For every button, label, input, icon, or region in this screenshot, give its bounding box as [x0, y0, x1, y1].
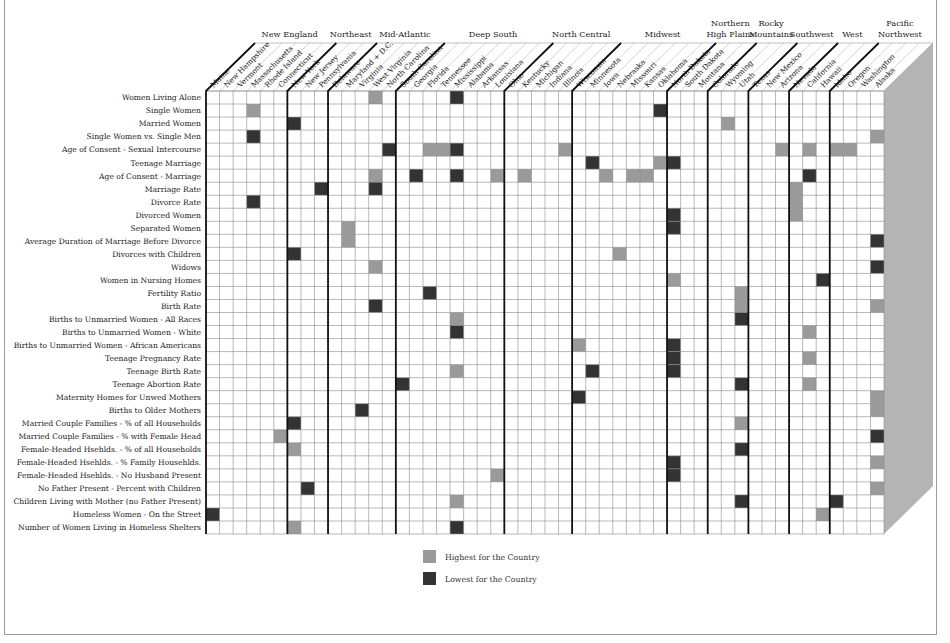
cell-highest	[803, 378, 817, 391]
cell-highest	[369, 260, 383, 273]
cell-lowest	[667, 352, 681, 365]
cell-highest	[870, 456, 884, 469]
cell-highest	[599, 169, 613, 182]
legend-swatch-lowest	[423, 572, 436, 585]
cell-lowest	[247, 195, 261, 208]
chart-legend: Highest for the CountryLowest for the Co…	[423, 550, 540, 585]
cell-highest	[613, 247, 627, 260]
row-label: Maternity Homes for Unwed Mothers	[56, 393, 201, 402]
region-label: Deep South	[469, 29, 518, 39]
row-label: Single Women	[146, 106, 201, 115]
cell-lowest	[586, 365, 600, 378]
row-label: Single Women vs. Single Men	[87, 132, 202, 141]
row-label: Teenage Pregnancy Rate	[105, 354, 201, 363]
row-label: Marriage Rate	[145, 185, 202, 194]
cell-lowest	[667, 456, 681, 469]
region-label: Rocky	[758, 18, 784, 28]
cell-lowest	[667, 156, 681, 169]
cell-lowest	[450, 143, 464, 156]
cell-lowest	[355, 404, 369, 417]
cell-highest	[491, 169, 505, 182]
cell-highest	[803, 326, 817, 339]
cell-lowest	[735, 378, 749, 391]
row-label: Births to Unmarried Women - White	[62, 328, 201, 337]
region-label: High Plains	[706, 29, 754, 39]
cell-lowest	[247, 130, 261, 143]
cell-highest	[870, 299, 884, 312]
cell-lowest	[450, 326, 464, 339]
cell-highest	[287, 521, 301, 534]
row-label: Births to Unmarried Women - African Amer…	[14, 341, 201, 350]
cell-lowest	[870, 234, 884, 247]
legend-swatch-highest	[423, 550, 436, 563]
chart-3d-side-face	[884, 43, 933, 534]
row-label: Married Couple Families - % with Female …	[18, 432, 201, 441]
cell-lowest	[450, 169, 464, 182]
cell-lowest	[369, 299, 383, 312]
cell-highest	[423, 143, 437, 156]
cell-highest	[626, 169, 640, 182]
cell-highest	[789, 208, 803, 221]
cell-lowest	[382, 143, 396, 156]
cell-highest	[450, 495, 464, 508]
cell-highest	[437, 143, 451, 156]
row-label: Women in Nursing Homes	[100, 276, 201, 285]
region-label: North Central	[552, 29, 611, 39]
cell-lowest	[667, 365, 681, 378]
cell-lowest	[735, 313, 749, 326]
row-label: Widows	[171, 263, 201, 272]
row-label: Divorces with Children	[112, 250, 201, 259]
cell-lowest	[667, 339, 681, 352]
row-label: Fertility Ratio	[147, 289, 201, 298]
region-label: Northeast	[330, 29, 372, 39]
cell-lowest	[735, 443, 749, 456]
cell-lowest	[667, 208, 681, 221]
legend-label-lowest: Lowest for the Country	[445, 575, 537, 584]
cell-lowest	[870, 430, 884, 443]
cell-highest	[830, 143, 844, 156]
cell-highest	[274, 430, 288, 443]
cell-highest	[735, 417, 749, 430]
chart-grid	[206, 43, 884, 534]
region-label: Mountains	[749, 29, 793, 39]
cell-highest	[342, 234, 356, 247]
cell-lowest	[206, 508, 220, 521]
cell-lowest	[830, 495, 844, 508]
row-label: No Father Present - Percent with Childre…	[38, 484, 201, 493]
cell-highest	[870, 391, 884, 404]
cell-highest	[491, 469, 505, 482]
cell-highest	[572, 339, 586, 352]
row-label: Births to Unmarried Women - All Races	[49, 315, 201, 324]
cell-highest	[342, 221, 356, 234]
cell-highest	[816, 508, 830, 521]
cell-lowest	[409, 169, 423, 182]
row-label: Teenage Birth Rate	[126, 367, 201, 376]
cell-highest	[789, 182, 803, 195]
cell-highest	[667, 273, 681, 286]
row-label: Married Couple Families - % of all House…	[22, 419, 201, 428]
cell-highest	[653, 156, 667, 169]
row-label: Teenage Marriage	[130, 159, 201, 168]
region-label: New England	[262, 29, 318, 39]
cell-highest	[559, 143, 573, 156]
row-label: Teenage Abortion Rate	[112, 380, 201, 389]
cell-highest	[870, 482, 884, 495]
side-face	[884, 43, 933, 534]
region-label: Northern	[711, 18, 750, 28]
cell-highest	[518, 169, 532, 182]
cell-highest	[870, 130, 884, 143]
cell-highest	[287, 443, 301, 456]
cell-highest	[735, 286, 749, 299]
row-label: Divorce Rate	[151, 198, 202, 207]
cell-highest	[369, 91, 383, 104]
cell-lowest	[287, 117, 301, 130]
cell-lowest	[423, 286, 437, 299]
row-label: Women Living Alone	[122, 93, 202, 102]
cell-lowest	[314, 182, 328, 195]
cell-highest	[803, 143, 817, 156]
row-label: Age of Consent - Marriage	[98, 172, 201, 181]
cell-lowest	[667, 469, 681, 482]
cell-highest	[247, 104, 261, 117]
row-label: Births to Older Mothers	[109, 406, 201, 415]
row-label: Birth Rate	[161, 302, 201, 311]
